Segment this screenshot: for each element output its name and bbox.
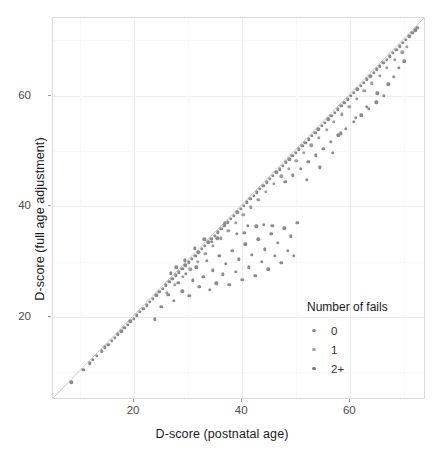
- legend-dot-icon: [312, 367, 316, 371]
- y-tick-label: 40: [18, 199, 31, 211]
- legend-dot-icon: [312, 329, 316, 333]
- legend: Number of fails 012+: [303, 300, 415, 378]
- legend-item-label: 2+: [331, 363, 344, 375]
- x-tick-label: 40: [235, 404, 248, 416]
- legend-item-1[interactable]: 1: [303, 340, 415, 359]
- scatter-plot-figure: D-score (full age adjustment) D-score (p…: [0, 0, 444, 454]
- y-tick-label: 60: [18, 89, 31, 101]
- y-tick-mark: [48, 95, 51, 96]
- x-tick-label: 60: [343, 404, 356, 416]
- legend-item-label: 1: [331, 344, 337, 356]
- x-tick-label: 20: [127, 404, 140, 416]
- y-tick-mark: [48, 316, 51, 317]
- y-axis-title: D-score (full age adjustment): [33, 94, 47, 344]
- y-tick-mark: [48, 205, 51, 206]
- legend-title: Number of fails: [307, 300, 415, 314]
- legend-item-2plus[interactable]: 2+: [303, 359, 415, 378]
- legend-key-icon: [303, 367, 325, 371]
- legend-item-0[interactable]: 0: [303, 321, 415, 340]
- legend-key-icon: [303, 329, 325, 333]
- legend-dot-icon: [312, 348, 316, 352]
- y-tick-label: 20: [18, 310, 31, 322]
- legend-item-label: 0: [331, 325, 337, 337]
- legend-items: 012+: [303, 321, 415, 378]
- x-axis-title: D-score (postnatal age): [0, 427, 444, 441]
- legend-key-icon: [303, 348, 325, 352]
- x-tick-mark: [133, 399, 134, 402]
- x-tick-mark: [241, 399, 242, 402]
- x-tick-mark: [349, 399, 350, 402]
